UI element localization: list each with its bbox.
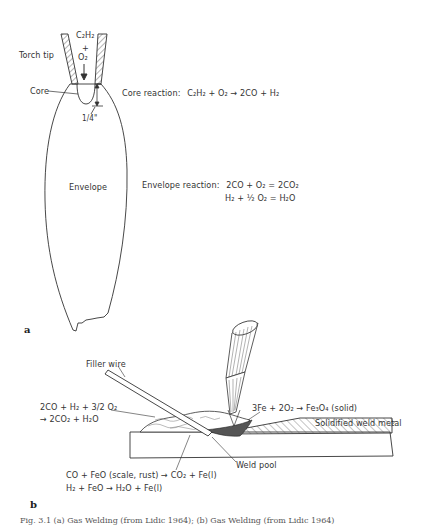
- reduction-reaction-line-1: CO + FeO (scale, rust) → CO₂ + Fe(l): [66, 470, 217, 480]
- panel-a-letter: a: [24, 324, 30, 335]
- core-label: Core: [30, 86, 49, 96]
- core-dimension-label: 1/4": [82, 114, 97, 124]
- panel-b-letter: b: [30, 499, 37, 510]
- solidified-weld-metal-label: Solidified weld metal: [315, 418, 402, 428]
- torch-nozzle: [226, 318, 259, 414]
- outer-flame-reaction-line-2: → 2CO₂ + H₂O: [40, 414, 99, 424]
- gas-acetylene-label: C₂H₂: [76, 30, 95, 40]
- core-reaction: Core reaction: C₂H₂ + O₂ → 2CO + H₂: [122, 88, 279, 98]
- torch-tip-label: Torch tip: [19, 50, 54, 60]
- core-reaction-equation: C₂H₂ + O₂ → 2CO + H₂: [187, 88, 279, 98]
- envelope-reaction-equation-1: 2CO + O₂ = 2CO₂: [226, 180, 299, 190]
- core-reaction-title: Core reaction:: [122, 88, 180, 98]
- gas-flow-arrow: [81, 64, 87, 80]
- envelope-reaction: Envelope reaction: 2CO + O₂ = 2CO₂: [142, 180, 299, 190]
- reduction-reaction-line-2: H₂ + FeO → H₂O + Fe(l): [66, 483, 162, 493]
- envelope-label: Envelope: [69, 182, 107, 192]
- filler-wire-label: Filler wire: [86, 359, 126, 369]
- figure-caption: Fig. 3.1 (a) Gas Welding (from Lidic 196…: [20, 516, 334, 525]
- weld-pool-label: Weld pool: [236, 460, 277, 470]
- envelope-reaction-equation-2: H₂ + ½ O₂ = H₂O: [225, 193, 295, 203]
- outer-flame-reaction-line-1: 2CO + H₂ + 3/2 O₂: [40, 402, 117, 412]
- welding-diagram: [0, 0, 423, 525]
- flame-core: [77, 84, 95, 104]
- envelope-reaction-title: Envelope reaction:: [142, 180, 219, 190]
- base-plate: [130, 432, 393, 458]
- gas-oxygen-label: O₂: [78, 52, 88, 62]
- oxide-reaction-label: 3Fe + 2O₂ → Fe₃O₄ (solid): [252, 403, 357, 413]
